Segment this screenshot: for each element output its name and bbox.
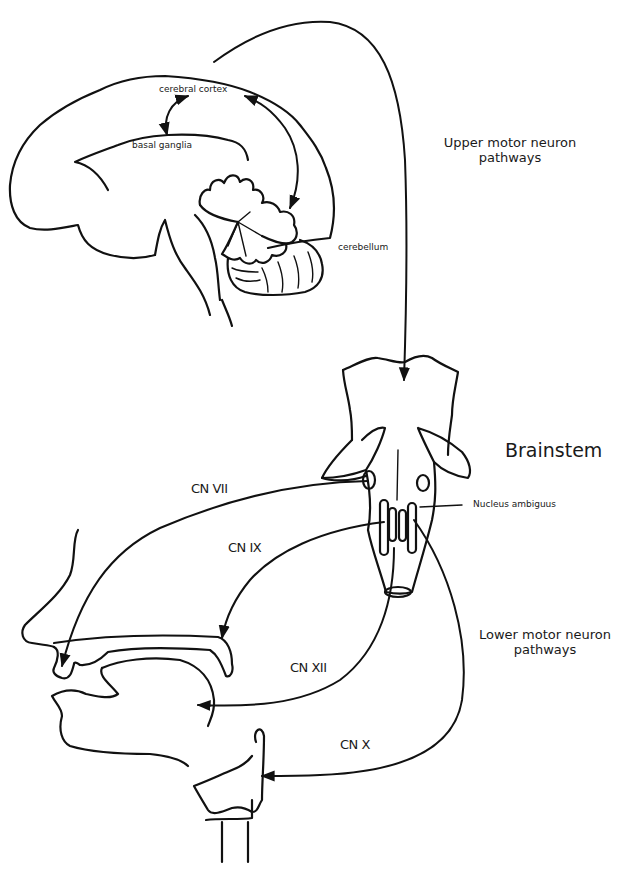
label-upper-line2: pathways: [420, 151, 600, 166]
label-cerebral-cortex: cerebral cortex: [159, 84, 227, 94]
label-cerebellum: cerebellum: [338, 242, 388, 252]
upper-motor-neuron-arrow: [214, 22, 407, 380]
brainstem-drawing: [322, 356, 470, 597]
motor-pathway-diagram: [0, 0, 627, 875]
label-lower-line1: Lower motor neuron: [455, 628, 627, 643]
vocal-tract-drawing: [22, 530, 264, 862]
label-brainstem: Brainstem: [505, 440, 602, 462]
brain-sagittal-drawing: [10, 76, 334, 326]
label-lower-motor-neuron-pathways: Lower motor neuron pathways: [455, 628, 627, 658]
cortical-loop-arrows: [166, 96, 298, 208]
label-cn-vii: CN VII: [191, 482, 228, 497]
label-basal-ganglia: basal ganglia: [132, 140, 192, 150]
label-cn-xii: CN XII: [290, 661, 327, 676]
label-cn-x: CN X: [340, 738, 370, 753]
label-upper-line1: Upper motor neuron: [420, 136, 600, 151]
label-nucleus-ambiguus: Nucleus ambiguus: [473, 499, 556, 509]
label-upper-motor-neuron-pathways: Upper motor neuron pathways: [420, 136, 600, 166]
label-cn-ix: CN IX: [228, 541, 261, 556]
label-lower-line2: pathways: [455, 643, 627, 658]
